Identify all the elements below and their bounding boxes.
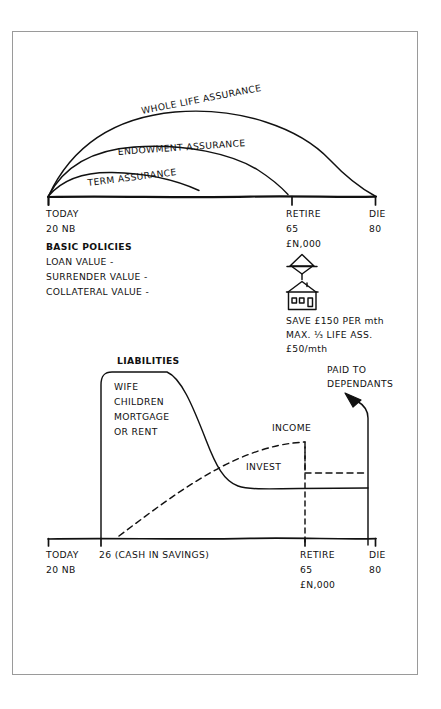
diagram-frame [12, 31, 418, 675]
page-canvas: WHOLE LIFE ASSURANCE ENDOWMENT ASSURANCE… [0, 0, 441, 709]
